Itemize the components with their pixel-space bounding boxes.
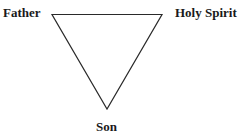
label-father: Father bbox=[3, 6, 41, 19]
label-son: Son bbox=[96, 120, 117, 132]
label-holy-spirit: Holy Spirit bbox=[175, 6, 237, 19]
triangle-shape bbox=[52, 15, 162, 110]
